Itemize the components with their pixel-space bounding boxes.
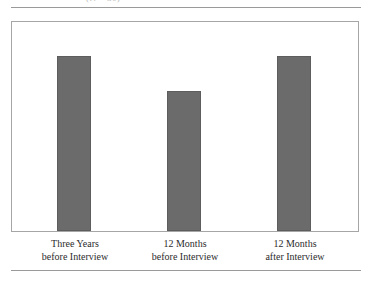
category-label: Three Years before Interview: [17, 238, 133, 263]
bar-group: 24: [156, 22, 272, 231]
category-axis-labels: Three Years before Interview 12 Months b…: [11, 238, 359, 268]
chart-plot-area: 30 24 30: [12, 22, 358, 231]
caption-fragment-text: (N = 30): [86, 0, 120, 3]
bar[interactable]: [167, 91, 201, 231]
category-label-line-1: 12 Months: [163, 238, 206, 249]
caption-fragment-clip: (N = 30): [0, 0, 372, 6]
category-label: 12 Months after Interview: [237, 238, 353, 263]
bar-group: 30: [46, 22, 162, 231]
bar[interactable]: [57, 56, 91, 231]
bottom-horizontal-rule: [11, 270, 361, 271]
category-label-line-1: Three Years: [51, 238, 99, 249]
category-label-line-2: before Interview: [127, 251, 243, 264]
category-label-line-1: 12 Months: [273, 238, 316, 249]
bar-group: 30: [266, 22, 372, 231]
bar[interactable]: [277, 56, 311, 231]
category-label-line-2: before Interview: [17, 251, 133, 264]
top-horizontal-rule: [11, 7, 361, 8]
category-label: 12 Months before Interview: [127, 238, 243, 263]
category-label-line-2: after Interview: [237, 251, 353, 264]
